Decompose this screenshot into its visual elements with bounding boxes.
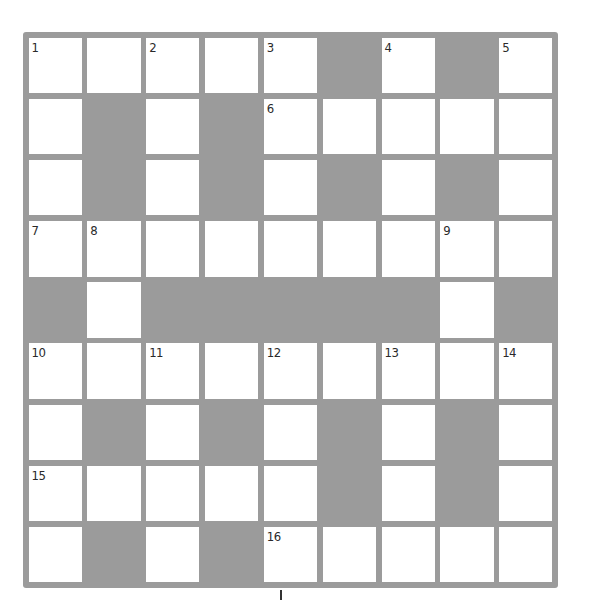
- grid-cell[interactable]: [87, 282, 140, 338]
- grid-cell[interactable]: [323, 221, 376, 277]
- grid-cell[interactable]: [264, 160, 317, 216]
- block-cell: [323, 466, 376, 522]
- grid-cell[interactable]: 4: [382, 38, 435, 94]
- block-cell: [440, 405, 493, 461]
- block-cell: [87, 99, 140, 155]
- grid-cell[interactable]: [205, 466, 258, 522]
- block-cell: [440, 38, 493, 94]
- clue-number: 16: [267, 530, 281, 544]
- clue-number: 4: [385, 41, 392, 55]
- block-cell: [323, 38, 376, 94]
- clue-number: 6: [267, 102, 274, 116]
- tick-mark: [280, 590, 282, 600]
- grid-cell[interactable]: 11: [146, 343, 199, 399]
- grid-cell[interactable]: 5: [499, 38, 552, 94]
- block-cell: [499, 282, 552, 338]
- block-cell: [440, 466, 493, 522]
- clue-number: 12: [267, 346, 281, 360]
- grid-cell[interactable]: 8: [87, 221, 140, 277]
- block-cell: [323, 160, 376, 216]
- grid-cell[interactable]: 3: [264, 38, 317, 94]
- block-cell: [205, 99, 258, 155]
- crossword-grid: 12345678910111213141516: [23, 32, 558, 588]
- grid-cell[interactable]: [205, 221, 258, 277]
- clue-number: 1: [32, 41, 39, 55]
- grid-cell[interactable]: [205, 343, 258, 399]
- grid-cell[interactable]: [499, 160, 552, 216]
- grid-cell[interactable]: 6: [264, 99, 317, 155]
- clue-number: 8: [90, 224, 97, 238]
- grid-cell[interactable]: [29, 99, 82, 155]
- grid-cell[interactable]: 1: [29, 38, 82, 94]
- block-cell: [323, 405, 376, 461]
- grid-cell[interactable]: [382, 160, 435, 216]
- block-cell: [87, 160, 140, 216]
- grid-cell[interactable]: [264, 405, 317, 461]
- clue-number: 11: [149, 346, 163, 360]
- grid-cell[interactable]: [440, 527, 493, 583]
- block-cell: [440, 160, 493, 216]
- grid-cell[interactable]: [29, 160, 82, 216]
- grid-cell[interactable]: [146, 221, 199, 277]
- block-cell: [29, 282, 82, 338]
- grid-cell[interactable]: [382, 99, 435, 155]
- grid-cell[interactable]: [146, 527, 199, 583]
- grid-cell[interactable]: 16: [264, 527, 317, 583]
- grid-cell[interactable]: [382, 527, 435, 583]
- clue-number: 13: [385, 346, 399, 360]
- clue-number: 10: [32, 346, 46, 360]
- grid-cell[interactable]: [264, 466, 317, 522]
- grid-cell[interactable]: 15: [29, 466, 82, 522]
- grid-cell[interactable]: [323, 343, 376, 399]
- grid-cell[interactable]: 14: [499, 343, 552, 399]
- grid-cell[interactable]: [499, 527, 552, 583]
- grid-cell[interactable]: 12: [264, 343, 317, 399]
- grid-cell[interactable]: [29, 527, 82, 583]
- block-cell: [205, 160, 258, 216]
- clue-number: 15: [32, 469, 46, 483]
- grid-cell[interactable]: [87, 343, 140, 399]
- block-cell: [205, 405, 258, 461]
- grid-cell[interactable]: [323, 527, 376, 583]
- grid-cell[interactable]: [382, 405, 435, 461]
- clue-number: 5: [502, 41, 509, 55]
- grid-cell[interactable]: [146, 99, 199, 155]
- block-cell: [264, 282, 317, 338]
- block-cell: [205, 282, 258, 338]
- block-cell: [87, 527, 140, 583]
- grid-cell[interactable]: [499, 466, 552, 522]
- block-cell: [146, 282, 199, 338]
- grid-cell[interactable]: [440, 282, 493, 338]
- clue-number: 9: [443, 224, 450, 238]
- grid-cell[interactable]: [499, 99, 552, 155]
- clue-number: 7: [32, 224, 39, 238]
- block-cell: [382, 282, 435, 338]
- grid-cell[interactable]: [146, 466, 199, 522]
- grid-cell[interactable]: 13: [382, 343, 435, 399]
- grid-cell[interactable]: 10: [29, 343, 82, 399]
- block-cell: [205, 527, 258, 583]
- grid-cell[interactable]: [146, 160, 199, 216]
- grid-cell[interactable]: 9: [440, 221, 493, 277]
- grid-cell[interactable]: [205, 38, 258, 94]
- grid-cell[interactable]: 2: [146, 38, 199, 94]
- clue-number: 14: [502, 346, 516, 360]
- block-cell: [323, 282, 376, 338]
- clue-number: 2: [149, 41, 156, 55]
- grid-cell[interactable]: [29, 405, 82, 461]
- grid-cell[interactable]: [87, 38, 140, 94]
- grid-cell[interactable]: [440, 343, 493, 399]
- grid-cell[interactable]: [440, 99, 493, 155]
- grid-cell[interactable]: 7: [29, 221, 82, 277]
- grid-cell[interactable]: [382, 221, 435, 277]
- grid-cell[interactable]: [323, 99, 376, 155]
- grid-cell[interactable]: [499, 405, 552, 461]
- block-cell: [87, 405, 140, 461]
- grid-cell[interactable]: [382, 466, 435, 522]
- clue-number: 3: [267, 41, 274, 55]
- grid-cell[interactable]: [264, 221, 317, 277]
- grid-cell[interactable]: [499, 221, 552, 277]
- grid-cell[interactable]: [87, 466, 140, 522]
- grid-cell[interactable]: [146, 405, 199, 461]
